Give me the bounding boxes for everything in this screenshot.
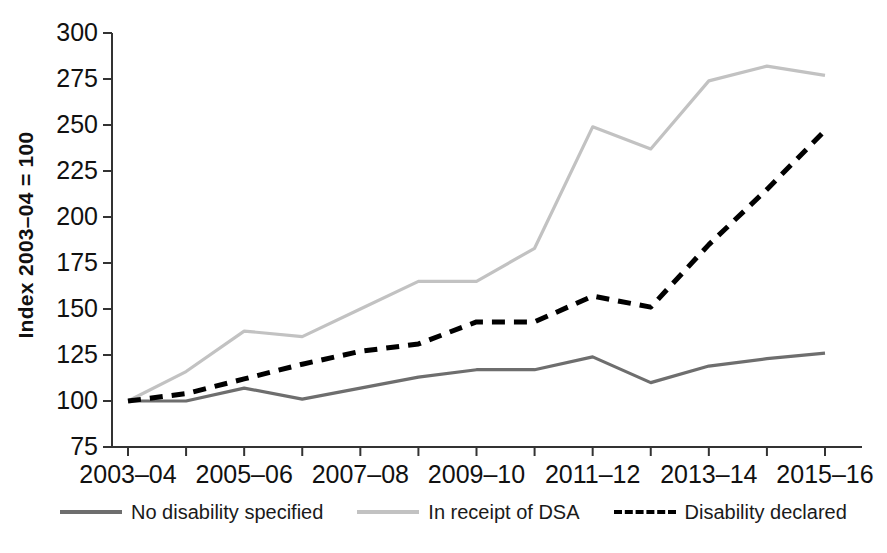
y-axis-tick-label: 300 bbox=[56, 18, 98, 46]
y-axis-tick-label: 125 bbox=[56, 340, 98, 368]
y-axis-tick-label: 100 bbox=[56, 386, 98, 414]
legend-item-in-receipt-of-dsa[interactable]: In receipt of DSA bbox=[357, 501, 579, 524]
series-line bbox=[128, 353, 825, 401]
x-axis-tick-label: 2007–08 bbox=[312, 460, 409, 488]
y-axis-tick-label: 175 bbox=[56, 248, 98, 276]
x-axis-tick-label: 2013–14 bbox=[660, 460, 757, 488]
legend-item-no-disability-specified[interactable]: No disability specified bbox=[60, 501, 323, 524]
series-line bbox=[128, 131, 825, 401]
x-axis-tick-label: 2011–12 bbox=[545, 460, 640, 488]
x-axis-tick-label: 2015–16 bbox=[776, 460, 873, 488]
y-axis-tick-labels: 75100125150175200225250275300 bbox=[56, 18, 98, 460]
legend-label: Disability declared bbox=[685, 501, 847, 524]
x-axis-tick-marks bbox=[128, 447, 825, 456]
x-axis-tick-label: 2003–04 bbox=[79, 460, 176, 488]
legend-label: In receipt of DSA bbox=[428, 501, 579, 524]
x-axis-tick-label: 2005–06 bbox=[196, 460, 293, 488]
y-axis-tick-label: 200 bbox=[56, 202, 98, 230]
y-axis-tick-label: 150 bbox=[56, 294, 98, 322]
legend-item-disability-declared[interactable]: Disability declared bbox=[614, 501, 847, 524]
data-series-group bbox=[128, 66, 825, 401]
legend-label: No disability specified bbox=[131, 501, 323, 524]
y-axis-tick-label: 250 bbox=[56, 110, 98, 138]
y-axis-tick-label: 275 bbox=[56, 64, 98, 92]
chart-figure: Index 2003–04 = 100 75100125150175200225… bbox=[0, 0, 887, 553]
y-axis-tick-label: 225 bbox=[56, 156, 98, 184]
y-axis-tick-marks bbox=[103, 33, 112, 447]
y-axis-tick-label: 75 bbox=[70, 432, 98, 460]
line-chart-plot: 75100125150175200225250275300 2003–04200… bbox=[0, 0, 887, 553]
chart-legend: No disability specified In receipt of DS… bbox=[60, 492, 860, 532]
x-axis-tick-labels: 2003–042005–062007–082009–102011–122013–… bbox=[79, 460, 873, 488]
x-axis-tick-label: 2009–10 bbox=[428, 460, 525, 488]
